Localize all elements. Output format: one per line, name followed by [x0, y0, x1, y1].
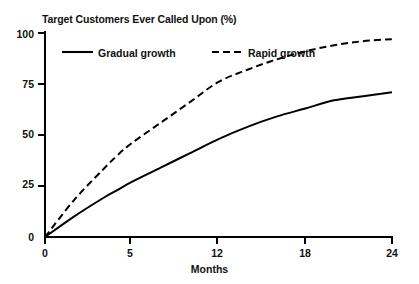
chart-plot-area — [0, 0, 419, 284]
x-axis-ticks — [45, 237, 392, 244]
series-line-gradual-growth — [45, 92, 392, 237]
axis-spines — [45, 32, 392, 237]
y-axis-ticks — [38, 33, 45, 186]
chart-figure: Target Customers Ever Called Upon (%) 10… — [0, 0, 419, 284]
